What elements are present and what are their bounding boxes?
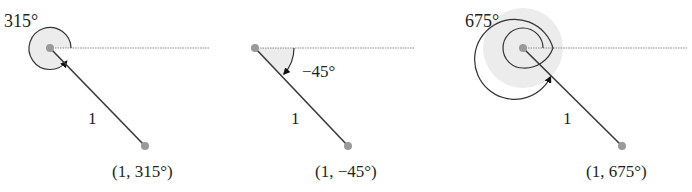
origin-dot	[46, 44, 54, 52]
radius-label: 1	[291, 110, 300, 127]
panel-315	[29, 27, 210, 150]
radius-segment	[50, 48, 145, 146]
radius-label: 1	[563, 110, 572, 127]
origin-dot	[251, 44, 259, 52]
panel-675	[475, 8, 688, 150]
panel-neg45	[251, 44, 414, 150]
angle-label: 315°	[4, 12, 38, 30]
angle-label: 675°	[465, 12, 499, 30]
radius-label: 1	[88, 110, 97, 127]
point-dot	[141, 142, 149, 150]
angle-shade	[255, 48, 294, 76]
angle-label: −45°	[302, 63, 335, 80]
point-dot	[618, 142, 626, 150]
point-label: (1, 315°)	[112, 163, 173, 180]
point-label: (1, 675°)	[586, 163, 647, 180]
radius-segment	[523, 48, 622, 146]
origin-dot	[519, 44, 527, 52]
point-label: (1, −45°)	[315, 163, 377, 180]
point-dot	[344, 142, 352, 150]
